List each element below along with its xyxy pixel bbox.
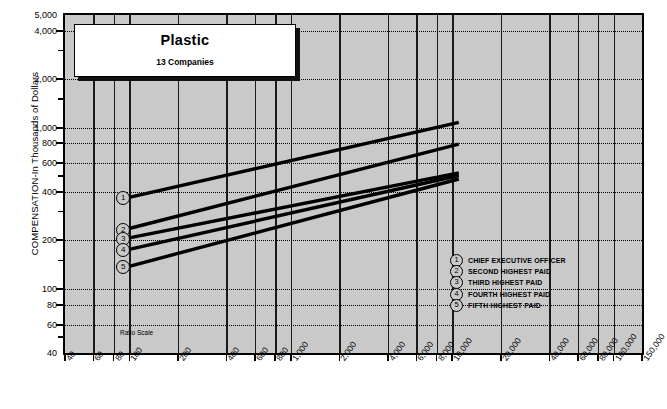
y-tick-mark [56,191,63,193]
legend-label: FIFTH HIGHEST PAID [468,302,541,309]
legend-label: FOURTH HIGHEST PAID [468,291,550,298]
y-axis-labels: 5,0004,0002,0001,00080060040020010080604… [0,0,63,409]
y-tick-label: 80 [5,300,63,310]
series-line-5 [129,179,459,266]
chart-title: Plastic [75,32,295,48]
y-tick-label: 200 [5,235,63,245]
y-tick-mark [56,162,63,164]
legend-marker-5: 5 [450,299,463,312]
legend-item: 4FOURTH HIGHEST PAID [450,289,566,300]
legend-label: CHIEF EXECUTIVE OFFICER [468,257,566,264]
x-axis-labels: 4060801002004006008001,0002,0004,0006,00… [0,355,653,409]
legend-label: THIRD HIGHEST PAID [468,279,542,286]
legend-item: 3THIRD HIGHEST PAID [450,277,566,288]
y-tick-mark [56,304,63,306]
y-tick-label: 5,000 [5,10,63,20]
ratio-scale-note: Ratio Scale [120,329,153,336]
gridline-vertical [642,15,644,353]
series-line-3 [129,173,459,238]
legend-item: 2SECOND HIGHEST PAID [450,266,566,277]
chart-legend: 1CHIEF EXECUTIVE OFFICER2SECOND HIGHEST … [450,255,566,311]
y-tick-mark [56,142,63,144]
y-tick-label: 4,000 [5,26,63,36]
y-tick-mark [56,239,63,241]
y-tick-mark [56,324,63,326]
y-tick-label: 400 [5,187,63,197]
chart-subtitle: 13 Companies [75,57,295,67]
legend-label: SECOND HIGHEST PAID [468,268,551,275]
y-tick-label: 100 [5,284,63,294]
y-tick-label: 800 [5,138,63,148]
y-tick-mark [56,30,63,32]
y-tick-mark [56,288,63,290]
y-tick-label: 1,000 [5,123,63,133]
legend-item: 1CHIEF EXECUTIVE OFFICER [450,255,566,266]
x-tick-label: 150,000 [641,332,667,363]
chart-title-box: Plastic 13 Companies [74,24,296,77]
y-tick-mark [56,127,63,129]
y-tick-label: 60 [5,320,63,330]
y-tick-mark [56,78,63,80]
y-tick-label: 600 [5,158,63,168]
y-tick-label: 2,000 [5,74,63,84]
plot-area: 12345 Plastic 13 Companies Ratio Scale 1… [63,13,644,355]
legend-item: 5FIFTH HIGHEST PAID [450,300,566,311]
